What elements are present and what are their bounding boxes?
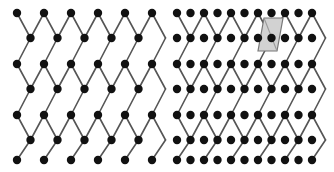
lattice-node <box>267 9 275 17</box>
lattice-node <box>134 136 142 144</box>
lattice-node <box>294 136 302 144</box>
lattice-node <box>80 34 88 42</box>
lattice-node <box>53 85 61 93</box>
lattice-node <box>107 85 115 93</box>
lattice-node <box>294 85 302 93</box>
lattice-node <box>67 60 75 68</box>
lattice-node <box>13 60 21 68</box>
lattice-node <box>254 156 262 164</box>
lattice-node <box>267 136 275 144</box>
lattice-node <box>308 34 316 42</box>
lattice-node <box>67 9 75 17</box>
lattice-node <box>213 156 221 164</box>
lattice-node <box>227 34 235 42</box>
lattice-node <box>107 136 115 144</box>
lattice-node <box>227 136 235 144</box>
lattice-node <box>94 9 102 17</box>
lattice-node <box>186 9 194 17</box>
lattice-node <box>267 34 275 42</box>
lattice-node <box>40 156 48 164</box>
lattice-node <box>173 9 181 17</box>
lattice-node <box>53 34 61 42</box>
lattice-node <box>281 111 289 119</box>
lattice-node <box>227 60 235 68</box>
lattice-node <box>294 34 302 42</box>
lattice-node <box>294 60 302 68</box>
lattice-node <box>173 156 181 164</box>
lattice-node <box>186 136 194 144</box>
lattice-node <box>227 111 235 119</box>
lattice-node <box>134 85 142 93</box>
lattice-node <box>227 156 235 164</box>
lattice-node <box>173 60 181 68</box>
lattice-figure <box>0 0 334 172</box>
lattice-node <box>294 156 302 164</box>
lattice-node <box>267 60 275 68</box>
lattice-node <box>53 136 61 144</box>
lattice-node <box>254 111 262 119</box>
lattice-node <box>267 111 275 119</box>
lattice-node <box>148 111 156 119</box>
lattice-node <box>254 34 262 42</box>
lattice-node <box>308 9 316 17</box>
left-lattice-svg <box>0 0 167 172</box>
lattice-node <box>213 85 221 93</box>
lattice-node <box>281 156 289 164</box>
lattice-node <box>200 136 208 144</box>
lattice-node <box>294 9 302 17</box>
lattice-node <box>200 85 208 93</box>
lattice-node <box>254 136 262 144</box>
lattice-node <box>200 156 208 164</box>
lattice-node <box>240 156 248 164</box>
lattice-node <box>200 60 208 68</box>
lattice-node <box>254 60 262 68</box>
lattice-node <box>13 9 21 17</box>
lattice-node <box>200 111 208 119</box>
lattice-node <box>240 111 248 119</box>
lattice-node <box>240 85 248 93</box>
lattice-node <box>134 34 142 42</box>
lattice-node <box>213 111 221 119</box>
lattice-node <box>121 60 129 68</box>
lattice-node <box>13 156 21 164</box>
lattice-node <box>240 136 248 144</box>
lattice-node <box>308 60 316 68</box>
lattice-node <box>121 156 129 164</box>
lattice-node <box>240 9 248 17</box>
lattice-node <box>40 60 48 68</box>
lattice-node <box>281 34 289 42</box>
lattice-node <box>308 85 316 93</box>
lattice-node <box>281 136 289 144</box>
lattice-node <box>173 111 181 119</box>
lattice-node <box>213 9 221 17</box>
lattice-node <box>173 34 181 42</box>
lattice-node <box>254 9 262 17</box>
lattice-node <box>308 111 316 119</box>
lattice-node <box>281 60 289 68</box>
lattice-node <box>121 111 129 119</box>
lattice-node <box>267 156 275 164</box>
lattice-node <box>186 156 194 164</box>
lattice-panel-left <box>0 0 167 172</box>
lattice-node <box>94 156 102 164</box>
lattice-node <box>227 9 235 17</box>
lattice-node <box>200 34 208 42</box>
lattice-node <box>308 136 316 144</box>
lattice-node <box>254 85 262 93</box>
lattice-node <box>173 136 181 144</box>
lattice-node <box>94 60 102 68</box>
lattice-node <box>67 111 75 119</box>
lattice-panel-right <box>167 0 334 172</box>
lattice-node <box>186 111 194 119</box>
lattice-node <box>213 136 221 144</box>
lattice-node <box>148 60 156 68</box>
lattice-node <box>227 85 235 93</box>
lattice-node <box>200 9 208 17</box>
right-lattice-svg <box>167 0 334 172</box>
lattice-node <box>94 111 102 119</box>
lattice-node <box>173 85 181 93</box>
lattice-node <box>26 136 34 144</box>
lattice-node <box>80 85 88 93</box>
lattice-node <box>213 60 221 68</box>
lattice-node <box>281 9 289 17</box>
